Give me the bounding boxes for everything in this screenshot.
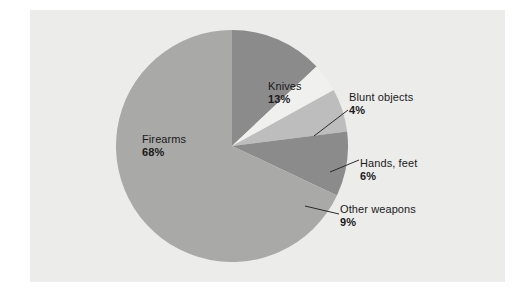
pie-chart-figure: Firearms 68% Knives 13% Blunt objects 4%… <box>0 0 523 295</box>
pie-label-hands-feet-name: Hands, feet <box>360 157 417 170</box>
pie-label-knives-name: Knives <box>268 80 302 93</box>
pie-label-firearms: Firearms 68% <box>142 133 186 159</box>
pie-label-blunt-objects-percent: 4% <box>349 104 413 117</box>
pie-label-knives: Knives 13% <box>268 80 302 106</box>
pie-label-blunt-objects: Blunt objects 4% <box>349 91 413 117</box>
pie-label-blunt-objects-name: Blunt objects <box>349 91 413 104</box>
pie-chart-graphic <box>0 0 523 295</box>
pie-label-knives-percent: 13% <box>268 93 302 106</box>
pie-label-firearms-name: Firearms <box>142 133 186 146</box>
pie-label-hands-feet-percent: 6% <box>360 170 417 183</box>
pie-label-firearms-percent: 68% <box>142 146 186 159</box>
pie-label-other-weapons-name: Other weapons <box>340 203 416 216</box>
pie-label-other-weapons-percent: 9% <box>340 216 416 229</box>
pie-label-other-weapons: Other weapons 9% <box>340 203 416 229</box>
pie-label-hands-feet: Hands, feet 6% <box>360 157 417 183</box>
